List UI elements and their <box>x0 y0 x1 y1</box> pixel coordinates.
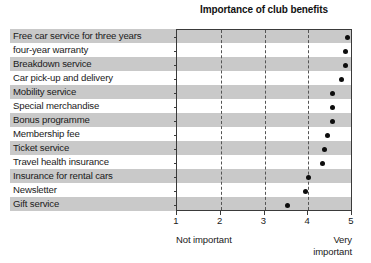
gridline <box>221 30 222 210</box>
data-point <box>322 147 327 152</box>
category-label: Mobility service <box>13 86 76 98</box>
data-point <box>325 133 330 138</box>
data-point <box>285 203 290 208</box>
axis-anchor-low: Not important <box>176 234 232 245</box>
data-point <box>303 189 308 194</box>
axis-anchor-high: Veryimportant <box>300 234 352 257</box>
chart-container: Importance of club benefits Free car ser… <box>0 0 371 263</box>
category-label: four-year warranty <box>13 44 88 56</box>
y-tick-mark <box>174 177 177 178</box>
y-tick-mark <box>174 65 177 66</box>
data-point <box>330 105 335 110</box>
category-label: Breakdown service <box>13 58 92 70</box>
axis-anchor-high-line2: important <box>300 246 352 258</box>
data-point <box>306 175 311 180</box>
y-tick-mark <box>174 51 177 52</box>
x-tick-label: 5 <box>348 215 353 226</box>
x-tick-label: 1 <box>173 215 178 226</box>
x-tick-label: 3 <box>261 215 266 226</box>
category-label: Ticket service <box>13 142 69 154</box>
category-label: Travel health insurance <box>13 156 109 168</box>
y-tick-mark <box>174 37 177 38</box>
y-tick-mark <box>174 121 177 122</box>
data-point <box>343 49 348 54</box>
gridline <box>265 30 266 210</box>
data-point <box>345 35 350 40</box>
data-point <box>320 161 325 166</box>
gridline <box>308 30 309 210</box>
category-label: Free car service for three years <box>13 30 142 42</box>
axis-anchor-high-line1: Very <box>333 234 352 245</box>
y-tick-mark <box>174 149 177 150</box>
data-point <box>343 63 348 68</box>
data-point <box>339 77 344 82</box>
category-label: Membership fee <box>13 128 80 140</box>
y-tick-mark <box>174 205 177 206</box>
data-point <box>330 91 335 96</box>
category-label: Car pick-up and delivery <box>13 72 113 84</box>
x-tick-label: 2 <box>217 215 222 226</box>
category-label: Special merchandise <box>13 100 99 112</box>
chart-title: Importance of club benefits <box>176 4 352 15</box>
y-tick-mark <box>174 135 177 136</box>
category-label: Bonus programme <box>13 114 90 126</box>
x-axis: 12345 <box>176 211 352 219</box>
y-tick-mark <box>174 163 177 164</box>
plot-area <box>176 29 352 211</box>
data-point <box>330 119 335 124</box>
y-tick-mark <box>174 107 177 108</box>
x-tick-label: 4 <box>305 215 310 226</box>
category-label: Newsletter <box>13 184 57 196</box>
category-label: Gift service <box>13 198 59 210</box>
category-label: Insurance for rental cars <box>13 170 113 182</box>
y-tick-mark <box>174 191 177 192</box>
y-tick-mark <box>174 93 177 94</box>
y-tick-mark <box>174 79 177 80</box>
